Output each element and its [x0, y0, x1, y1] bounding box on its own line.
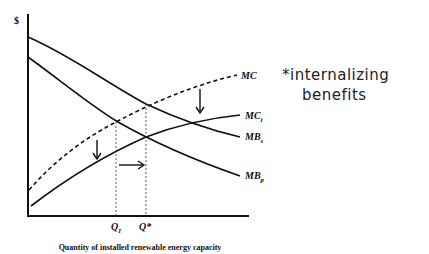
down-arrow-icon [93, 140, 101, 159]
mc-i-label: MCi [244, 110, 263, 124]
mc-curve [29, 75, 237, 190]
x-axis-label: Quantity of installed renewable energy c… [59, 243, 222, 252]
q1-label: QI [111, 221, 121, 235]
economics-diagram: $ MC MCi MBs MBp QI Q* Quantity of insta… [0, 0, 429, 254]
y-axis-label: $ [14, 15, 19, 26]
down-arrow-icon [196, 89, 204, 113]
mc-label: MC [240, 70, 257, 81]
mb-p-curve [28, 57, 240, 176]
annotation-line-2: benefits [302, 86, 367, 104]
mb-s-label: MBs [244, 131, 264, 145]
right-arrow-icon [119, 161, 144, 169]
qstar-label: Q* [139, 221, 152, 232]
mb-s-curve [28, 37, 240, 137]
annotation-line-1: *internalizing [282, 66, 389, 84]
mb-p-label: MBp [244, 170, 265, 184]
